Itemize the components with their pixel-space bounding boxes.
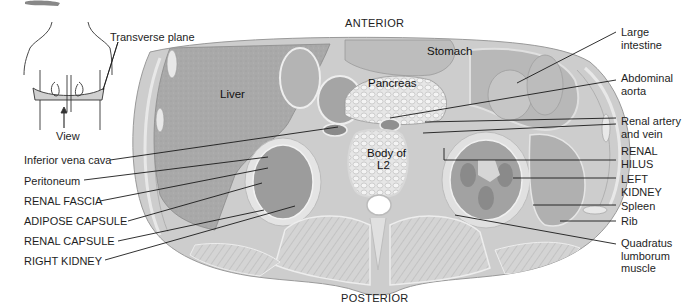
label-rib: Rib <box>621 215 638 228</box>
posterior-label: POSTERIOR <box>341 292 409 304</box>
vertebra-label-line1: Body of <box>367 147 406 159</box>
vertebra-label-line2: L2 <box>377 159 390 171</box>
stomach-label: Stomach <box>427 45 472 57</box>
view-label: View <box>56 130 80 143</box>
label-inferior-vena-cava: Inferior vena cava <box>24 154 111 167</box>
label-left-kidney: LEFT KIDNEY <box>621 173 662 198</box>
label-abdominal-aorta: Abdominal aorta <box>621 72 673 97</box>
label-spleen: Spleen <box>621 200 655 213</box>
label-right-kidney: RIGHT KIDNEY <box>24 255 102 268</box>
inset-torso-figure <box>24 1 118 130</box>
anatomy-diagram: ANTERIOR POSTERIOR Transverse plane View… <box>0 0 699 308</box>
label-renal-capsule: RENAL CAPSULE <box>24 235 115 248</box>
label-peritoneum: Peritoneum <box>24 175 80 188</box>
label-renal-fascia: RENAL FASCIA <box>24 195 102 208</box>
right-kidney-shape <box>253 145 313 219</box>
label-quadratus-lumborum: Quadratus lumborum muscle <box>621 237 672 275</box>
transverse-plane-label: Transverse plane <box>110 31 195 44</box>
label-renal-hilus: RENAL HILUS <box>621 145 658 170</box>
label-adipose-capsule: ADIPOSE CAPSULE <box>24 215 127 228</box>
label-renal-artery-vein: Renal artery and vein <box>621 115 681 140</box>
label-large-intestine: Large intestine <box>621 26 662 51</box>
pancreas-label: Pancreas <box>368 77 417 89</box>
liver-label: Liver <box>220 88 245 100</box>
anterior-label: ANTERIOR <box>345 17 404 29</box>
